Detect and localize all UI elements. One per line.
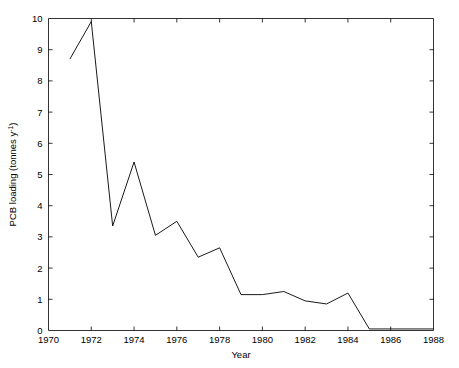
y-tick-label: 7 — [37, 107, 42, 118]
chart-figure: 1970197219741976197819801982198419861988… — [0, 0, 459, 368]
x-tick-label: 1974 — [123, 334, 144, 345]
x-axis-ticks — [91, 19, 390, 331]
y-tick-label: 4 — [37, 200, 42, 211]
x-tick-label: 1986 — [380, 334, 401, 345]
x-axis-tick-labels: 1970197219741976197819801982198419861988 — [38, 334, 444, 345]
data-series-pcb-loading — [70, 22, 434, 329]
x-tick-label: 1972 — [81, 334, 102, 345]
x-tick-label: 1978 — [209, 334, 230, 345]
y-tick-label: 1 — [37, 294, 42, 305]
y-tick-label: 3 — [37, 231, 42, 242]
y-tick-label: 10 — [32, 13, 43, 24]
x-axis-title: Year — [231, 349, 250, 360]
y-tick-label: 6 — [37, 138, 42, 149]
x-tick-label: 1982 — [295, 334, 316, 345]
y-tick-label: 9 — [37, 44, 42, 55]
y-tick-label: 2 — [37, 263, 42, 274]
x-tick-label: 1980 — [252, 334, 273, 345]
y-axis-tick-labels: 012345678910 — [32, 13, 43, 336]
y-axis-title: PCB loading (tonnes y-1) — [7, 123, 18, 227]
x-tick-label: 1984 — [337, 334, 358, 345]
x-tick-label: 1988 — [423, 334, 444, 345]
x-tick-label: 1976 — [166, 334, 187, 345]
y-tick-label: 5 — [37, 169, 42, 180]
y-tick-label: 0 — [37, 325, 42, 336]
pcb-loading-line-chart: 1970197219741976197819801982198419861988… — [0, 0, 459, 368]
y-axis-ticks — [49, 50, 434, 300]
plot-frame — [49, 19, 434, 331]
y-tick-label: 8 — [37, 75, 42, 86]
